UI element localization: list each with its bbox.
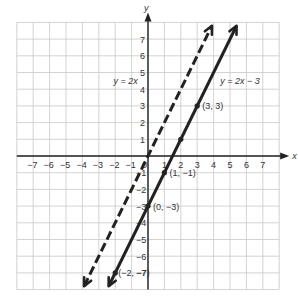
y-tick-label: 3 xyxy=(140,101,145,111)
point-label: (1, −1) xyxy=(169,168,195,178)
point-label: (0, −3) xyxy=(153,202,179,212)
y-tick-label: −6 xyxy=(136,252,146,262)
equation-label: y = 2x − 3 xyxy=(219,76,260,86)
x-tick-label: −6 xyxy=(44,160,54,170)
x-tick-label: −4 xyxy=(76,160,86,170)
axes: xy xyxy=(17,3,297,289)
y-tick-label: 6 xyxy=(140,51,145,61)
x-tick-label: −3 xyxy=(93,160,103,170)
point-label: (−2, −7) xyxy=(118,268,150,278)
data-point xyxy=(178,137,183,142)
y-tick-label: 1 xyxy=(140,135,145,145)
data-point xyxy=(145,204,150,209)
x-tick-label: 7 xyxy=(260,160,265,170)
y-tick-label: 4 xyxy=(140,85,145,95)
coordinate-plane: xy −7−6−5−4−3−2−101234567−7−6−5−4−3−2−11… xyxy=(0,0,298,307)
y-tick-label: 5 xyxy=(140,68,145,78)
y-tick-label: 7 xyxy=(140,35,145,45)
x-tick-label: −5 xyxy=(60,160,70,170)
x-tick-label: −2 xyxy=(109,160,119,170)
x-tick-label: −1 xyxy=(126,160,136,170)
y-axis-label: y xyxy=(143,3,149,13)
y-axis-arrow-icon xyxy=(145,12,152,21)
data-point xyxy=(113,270,118,275)
y-tick-label: 2 xyxy=(140,118,145,128)
point-label: (3, 3) xyxy=(202,101,223,111)
x-axis-label: x xyxy=(291,151,297,161)
data-point xyxy=(162,170,167,175)
x-tick-label: −7 xyxy=(27,160,37,170)
x-tick-label: 4 xyxy=(211,160,216,170)
data-points: (3, 3)(1, −1)(0, −3)(−2, −7) xyxy=(113,101,224,278)
x-tick-label: 5 xyxy=(228,160,233,170)
y-tick-label: −2 xyxy=(136,185,146,195)
data-point xyxy=(195,103,200,108)
x-axis-arrow-icon xyxy=(280,153,289,160)
equation-label: y = 2x xyxy=(113,76,139,86)
x-tick-label: 6 xyxy=(244,160,249,170)
y-tick-label: −5 xyxy=(136,235,146,245)
